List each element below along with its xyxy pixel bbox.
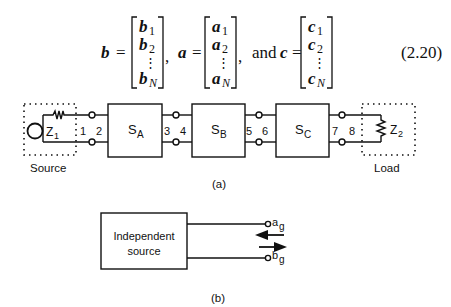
terminal-node <box>256 139 262 145</box>
z2-label: Z <box>390 123 397 137</box>
port-7: 7 <box>332 125 338 137</box>
box-label-line2: source <box>127 245 160 257</box>
source-label: Source <box>30 162 66 174</box>
block-sb-sub: B <box>220 129 227 140</box>
z1-label: Z <box>46 125 53 139</box>
port-ag-label: a <box>272 216 279 228</box>
caption-b: (b) <box>211 292 225 304</box>
port-4: 4 <box>180 125 186 137</box>
caption-a: (a) <box>212 178 226 190</box>
terminal-node <box>173 112 179 118</box>
port-8: 8 <box>349 125 355 137</box>
block-sb-label: S <box>211 122 220 137</box>
port-3: 3 <box>164 125 170 137</box>
figure-network-diagram: Z 1 1 2 3 4 5 6 7 8 S A S B S C Z 2 Sour… <box>0 0 451 307</box>
terminal-node <box>173 139 179 145</box>
terminal-node <box>89 112 95 118</box>
block-sc-label: S <box>295 122 304 137</box>
port-2: 2 <box>96 125 102 137</box>
port-ag-sub: g <box>279 221 285 232</box>
z1-resistor-icon <box>43 111 89 119</box>
terminal-node <box>339 112 345 118</box>
z2-resistor-icon <box>377 115 385 142</box>
voltage-source-icon <box>28 124 43 139</box>
terminal-node <box>339 139 345 145</box>
port-6: 6 <box>262 125 268 137</box>
port-bg-sub: g <box>279 254 285 265</box>
port-bg-label: b <box>272 249 278 261</box>
terminal-node <box>256 112 262 118</box>
block-sa-sub: A <box>137 129 144 140</box>
z2-sub: 2 <box>398 129 403 139</box>
block-sa-label: S <box>128 122 137 137</box>
box-label-line1: Independent <box>113 230 174 242</box>
port-5: 5 <box>246 125 252 137</box>
terminal-bg <box>265 255 270 260</box>
port-1: 1 <box>80 125 86 137</box>
load-dotted-box <box>362 104 415 155</box>
terminal-node <box>89 139 95 145</box>
z1-sub: 1 <box>54 131 59 141</box>
block-sc-sub: C <box>304 129 311 140</box>
load-label: Load <box>374 162 400 174</box>
terminal-ag <box>265 221 270 226</box>
